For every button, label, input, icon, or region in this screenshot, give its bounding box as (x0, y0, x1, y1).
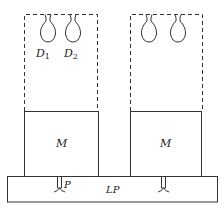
drop-right-2-icon (170, 15, 185, 43)
drop-right-1-icon (141, 15, 156, 43)
drop-d1-icon (40, 15, 55, 43)
pipe-p-label: P (63, 179, 71, 190)
base-plate-label: LP (105, 184, 120, 195)
drop-d2-icon (65, 15, 80, 43)
right-module-label: M (159, 137, 172, 150)
right-dashed-enclosure (131, 15, 203, 112)
left-dashed-enclosure (25, 15, 98, 112)
right-pipe-icon (158, 177, 169, 193)
drop-d2-label: D2 (63, 47, 78, 61)
left-module-label: M (55, 137, 68, 150)
diagram-canvas: D1 D2 M M P LP (0, 0, 224, 213)
drop-d1-label: D1 (35, 47, 50, 61)
